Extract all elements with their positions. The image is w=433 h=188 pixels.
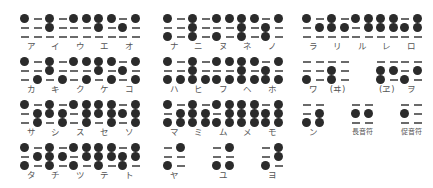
raised-dot-icon [94, 109, 103, 118]
empty-dash-icon [20, 118, 29, 127]
empty-dash-icon [201, 57, 210, 66]
empty-dash-icon [400, 14, 409, 23]
braille-cell: カ [20, 57, 42, 84]
empty-dash-icon [94, 118, 103, 127]
raised-dot-icon [212, 100, 221, 109]
raised-dot-icon [188, 14, 197, 23]
empty-dash-icon [58, 143, 67, 152]
raised-dot-icon [107, 14, 116, 23]
empty-dash-icon [163, 143, 172, 152]
empty-dash-icon [58, 32, 67, 41]
empty-dash-icon [58, 100, 67, 109]
empty-dash-icon [400, 66, 409, 75]
raised-dot-icon [237, 118, 246, 127]
braille-dots [20, 57, 42, 84]
raised-dot-icon [212, 118, 221, 127]
braille-dots [45, 143, 67, 170]
braille-cell: マ [163, 100, 185, 127]
empty-dash-icon [261, 143, 270, 152]
raised-dot-icon [107, 75, 116, 84]
cell-label: ヨ [255, 170, 289, 180]
cell-label: ト [112, 170, 146, 180]
raised-dot-icon [118, 161, 127, 170]
raised-dot-icon [237, 66, 246, 75]
raised-dot-icon [163, 75, 172, 84]
braille-cell: ミ [188, 100, 210, 127]
braille-cell: セ [94, 100, 116, 127]
empty-dash-icon [315, 14, 324, 23]
raised-dot-icon [45, 100, 54, 109]
raised-dot-icon [261, 118, 270, 127]
empty-dash-icon [351, 32, 360, 41]
empty-dash-icon [201, 100, 210, 109]
raised-dot-icon [274, 109, 283, 118]
braille-dots [118, 14, 140, 41]
raised-dot-icon [45, 152, 54, 161]
raised-dot-icon [237, 109, 246, 118]
cell-label: ユ [206, 170, 240, 180]
empty-dash-icon [33, 23, 42, 32]
empty-dash-icon [201, 66, 210, 75]
empty-dash-icon [413, 100, 422, 109]
empty-dash-icon [225, 152, 234, 161]
braille-dots [327, 57, 349, 84]
cell-label: 長音符 [343, 127, 381, 137]
braille-dots [94, 143, 116, 170]
raised-dot-icon [82, 109, 91, 118]
braille-cell: キ [45, 57, 67, 84]
empty-dash-icon [131, 23, 140, 32]
empty-dash-icon [400, 100, 409, 109]
braille-cell: 促音符 [400, 100, 422, 127]
braille-dots [20, 14, 42, 41]
empty-dash-icon [364, 32, 373, 41]
raised-dot-icon [250, 57, 259, 66]
cell-label: ホ [255, 84, 289, 94]
raised-dot-icon [188, 100, 197, 109]
raised-dot-icon [225, 75, 234, 84]
raised-dot-icon [340, 23, 349, 32]
empty-dash-icon [118, 32, 127, 41]
cell-label: ヲ [394, 84, 428, 94]
braille-cell: シ [45, 100, 67, 127]
empty-dash-icon [302, 100, 311, 109]
raised-dot-icon [327, 14, 336, 23]
empty-dash-icon [33, 100, 42, 109]
raised-dot-icon [212, 57, 221, 66]
raised-dot-icon [274, 14, 283, 23]
braille-dots [188, 100, 210, 127]
braille-cell: ノ [261, 14, 283, 41]
braille-dots [20, 100, 42, 127]
empty-dash-icon [131, 66, 140, 75]
empty-dash-icon [176, 161, 185, 170]
raised-dot-icon [118, 66, 127, 75]
empty-dash-icon [302, 32, 311, 41]
braille-dots [400, 100, 422, 127]
empty-dash-icon [225, 32, 234, 41]
raised-dot-icon [364, 14, 373, 23]
empty-dash-icon [389, 75, 398, 84]
raised-dot-icon [212, 14, 221, 23]
empty-dash-icon [163, 152, 172, 161]
braille-cell: ハ [163, 57, 185, 84]
braille-dots [212, 143, 234, 170]
raised-dot-icon [376, 14, 385, 23]
empty-dash-icon [351, 100, 360, 109]
empty-dash-icon [33, 143, 42, 152]
raised-dot-icon [351, 14, 360, 23]
raised-dot-icon [94, 66, 103, 75]
braille-cell: (ヰ) [327, 57, 349, 84]
empty-dash-icon [250, 66, 259, 75]
raised-dot-icon [250, 100, 259, 109]
braille-cell: オ [118, 14, 140, 41]
empty-dash-icon [340, 75, 349, 84]
empty-dash-icon [118, 14, 127, 23]
braille-cell: チ [45, 143, 67, 170]
raised-dot-icon [188, 32, 197, 41]
empty-dash-icon [69, 118, 78, 127]
braille-cell: ケ [94, 57, 116, 84]
braille-dots [163, 143, 185, 170]
empty-dash-icon [261, 152, 270, 161]
raised-dot-icon [94, 57, 103, 66]
braille-cell: ヲ [400, 57, 422, 84]
empty-dash-icon [225, 23, 234, 32]
